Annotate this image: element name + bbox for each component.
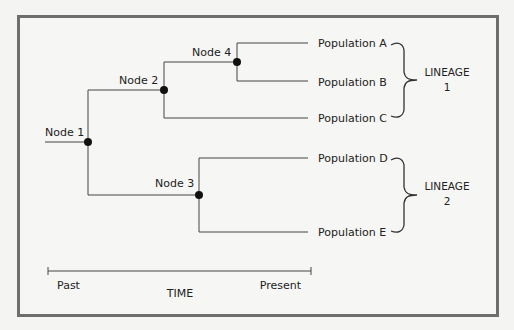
lineage2-brace [391, 158, 417, 232]
lineage1-brace [391, 43, 417, 117]
population-b-label: Population B [318, 76, 387, 89]
lineage1-label: LINEAGE [424, 66, 469, 78]
population-d-label: Population D [318, 152, 388, 165]
time-axis-present-label: Present [260, 279, 302, 292]
lineage1-number: 1 [444, 81, 451, 93]
time-axis-past-label: Past [57, 279, 81, 292]
node3-label: Node 3 [155, 177, 194, 190]
phylogenetic-tree-diagram: Node 1 Node 2 Node 3 Node 4 Population A… [0, 0, 514, 330]
node2-dot [160, 86, 168, 94]
node3-dot [195, 191, 203, 199]
tree-branches [45, 43, 308, 232]
population-c-label: Population C [318, 112, 387, 125]
lineage2-label: LINEAGE [424, 180, 469, 192]
node4-dot [233, 58, 241, 66]
population-a-label: Population A [318, 37, 387, 50]
population-e-label: Population E [318, 226, 386, 239]
node2-label: Node 2 [119, 74, 158, 87]
node1-label: Node 1 [45, 126, 84, 139]
node1-dot [84, 138, 92, 146]
lineage2-number: 2 [444, 195, 451, 207]
time-axis-title: TIME [166, 287, 193, 300]
node4-label: Node 4 [192, 46, 231, 59]
time-axis: Past TIME Present [48, 267, 311, 300]
